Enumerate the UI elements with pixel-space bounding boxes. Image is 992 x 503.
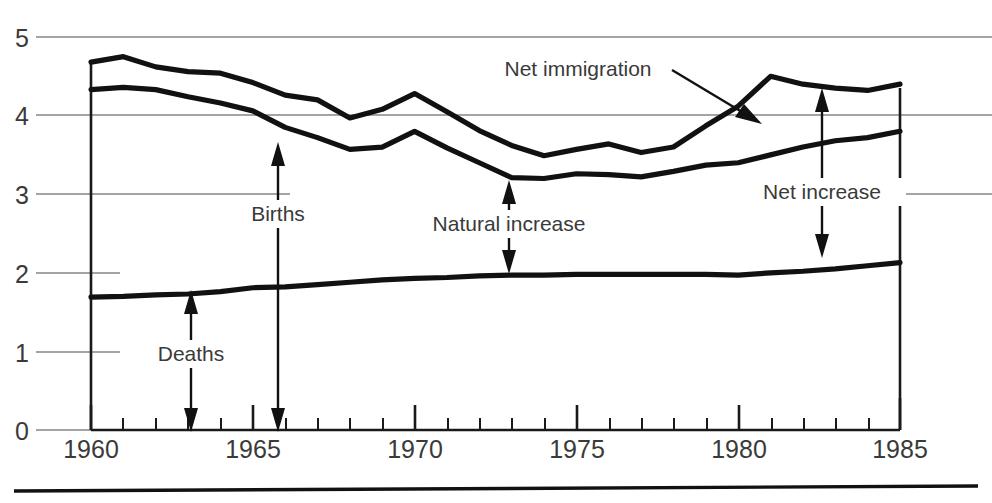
annotation-deaths: Deaths [145, 290, 239, 432]
x-tick-label-1980: 1980 [711, 435, 767, 463]
x-tick-label-1985: 1985 [872, 435, 928, 463]
natural-increase-arrow-head-down [502, 250, 516, 274]
series-total-increase-line [91, 57, 900, 156]
y-axis-tick-labels: 5 4 3 2 1 0 [15, 24, 29, 445]
births-arrow-head-up [271, 142, 285, 166]
natural-increase-arrow-head-up [502, 180, 516, 204]
annotation-label-natural-increase: Natural increase [433, 212, 586, 235]
deaths-arrow-head-down [184, 408, 198, 432]
x-tick-label-1970: 1970 [387, 435, 443, 463]
y-tick-label-4: 4 [15, 102, 29, 130]
population-change-line-chart: 5 4 3 2 1 0 [0, 0, 992, 503]
y-tick-label-0: 0 [15, 417, 29, 445]
annotation-label-deaths: Deaths [158, 342, 225, 365]
series-deaths-line [91, 263, 900, 298]
y-tick-label-2: 2 [15, 260, 29, 288]
x-axis-tick-labels: 1960 1965 1970 1975 1980 1985 [63, 435, 928, 463]
x-axis-tick-marks [91, 398, 900, 430]
chart-figure: 5 4 3 2 1 0 [0, 0, 992, 503]
annotation-label-births: Births [251, 202, 305, 225]
data-series-group [91, 57, 900, 298]
x-tick-label-1975: 1975 [549, 435, 605, 463]
y-tick-label-5: 5 [15, 24, 29, 52]
footer-divider-rule [14, 486, 978, 491]
annotation-natural-increase: Natural increase [419, 180, 601, 274]
y-tick-label-3: 3 [15, 181, 29, 209]
annotation-net-increase: Net increase [740, 88, 906, 258]
x-tick-label-1965: 1965 [225, 435, 281, 463]
x-tick-label-1960: 1960 [63, 435, 119, 463]
series-births-line [91, 87, 900, 178]
net-increase-arrow-head-up [815, 88, 829, 112]
net-increase-arrow-head-down [815, 234, 829, 258]
y-tick-label-1: 1 [15, 339, 29, 367]
annotation-label-net-immigration: Net immigration [504, 57, 651, 80]
annotation-label-net-increase: Net increase [763, 180, 881, 203]
births-arrow-head-down [271, 408, 285, 432]
